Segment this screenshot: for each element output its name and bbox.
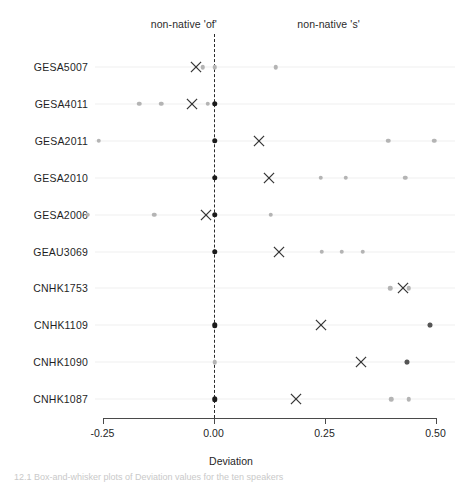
x-axis-title: Deviation bbox=[0, 455, 462, 467]
y-axis-label-gesa2006: GESA2006 bbox=[0, 209, 88, 221]
data-point-mean-marker bbox=[253, 134, 266, 147]
row-guide-line bbox=[95, 399, 455, 400]
data-point-mean-marker bbox=[354, 356, 367, 369]
data-point-observation bbox=[212, 360, 217, 365]
data-point-observation bbox=[388, 286, 393, 291]
x-axis-tick bbox=[214, 418, 215, 424]
data-point-median bbox=[212, 249, 218, 255]
data-point-mean-marker bbox=[314, 319, 327, 332]
data-point-observation bbox=[152, 212, 157, 217]
data-point-observation bbox=[360, 249, 365, 254]
data-point-mean-marker bbox=[262, 171, 275, 184]
data-point-observation bbox=[268, 212, 273, 217]
data-point-median bbox=[212, 212, 218, 218]
data-point-median bbox=[212, 138, 218, 144]
y-axis-label-gesa4011: GESA4011 bbox=[0, 98, 88, 110]
data-point-mean-marker bbox=[272, 245, 285, 258]
data-point-mean-marker bbox=[185, 97, 198, 110]
row-guide-line bbox=[95, 362, 455, 363]
data-point-observation bbox=[97, 139, 102, 144]
y-axis-label-gesa2011: GESA2011 bbox=[0, 135, 88, 147]
x-axis-tick-label: 0.50 bbox=[425, 427, 445, 439]
y-axis-label-gesa5007: GESA5007 bbox=[0, 61, 88, 73]
row-guide-line bbox=[95, 325, 455, 326]
y-axis-label-cnhk1753: CNHK1753 bbox=[0, 282, 88, 294]
data-point-observation bbox=[339, 249, 344, 254]
data-point-median bbox=[212, 323, 218, 329]
data-point-observation bbox=[159, 102, 164, 107]
row-guide-line bbox=[95, 140, 455, 141]
data-point-median bbox=[212, 175, 218, 181]
data-point-observation bbox=[389, 397, 394, 402]
figure-caption: 12.1 Box-and-whisker plots of Deviation … bbox=[14, 472, 456, 482]
data-point-observation bbox=[86, 212, 91, 217]
data-point-mean-marker bbox=[396, 282, 409, 295]
row-guide-line bbox=[95, 214, 455, 215]
group-annotation-non-native-s: non-native 's' bbox=[297, 18, 360, 30]
data-point-observation bbox=[427, 323, 432, 328]
data-point-observation bbox=[432, 139, 437, 144]
data-point-mean-marker bbox=[289, 393, 302, 406]
row-guide-line bbox=[95, 103, 455, 104]
data-point-observation bbox=[386, 139, 391, 144]
row-guide-line bbox=[95, 177, 455, 178]
data-point-mean-marker bbox=[199, 208, 212, 221]
y-axis-label-gesa2010: GESA2010 bbox=[0, 172, 88, 184]
y-axis-label-cnhk1090: CNHK1090 bbox=[0, 356, 88, 368]
x-axis-line bbox=[103, 418, 436, 419]
data-point-observation bbox=[273, 65, 278, 70]
data-point-observation bbox=[343, 175, 348, 180]
data-point-observation bbox=[318, 175, 323, 180]
data-point-observation bbox=[406, 397, 411, 402]
figure-container: non-native 'of'non-native 's'GESA5007GES… bbox=[0, 0, 462, 484]
data-point-observation bbox=[319, 249, 324, 254]
x-axis-tick-label: 0.25 bbox=[314, 427, 334, 439]
x-axis-tick bbox=[103, 418, 104, 424]
data-point-observation bbox=[212, 65, 217, 70]
data-point-observation bbox=[205, 102, 210, 107]
x-axis-tick-label: 0.00 bbox=[203, 427, 223, 439]
data-point-mean-marker bbox=[189, 61, 202, 74]
data-point-observation bbox=[404, 360, 409, 365]
data-point-observation bbox=[137, 102, 142, 107]
scatter-plot-area: non-native 'of'non-native 's'GESA5007GES… bbox=[0, 0, 462, 484]
x-axis-tick bbox=[325, 418, 326, 424]
data-point-observation bbox=[403, 175, 408, 180]
x-axis-tick-label: -0.25 bbox=[91, 427, 115, 439]
data-point-median bbox=[212, 396, 218, 402]
x-axis-tick bbox=[436, 418, 437, 424]
data-point-median bbox=[212, 101, 218, 107]
group-annotation-non-native-of: non-native 'of' bbox=[151, 18, 217, 30]
y-axis-label-cnhk1109: CNHK1109 bbox=[0, 319, 88, 331]
y-axis-label-geau3069: GEAU3069 bbox=[0, 246, 88, 258]
y-axis-label-cnhk1087: CNHK1087 bbox=[0, 393, 88, 405]
